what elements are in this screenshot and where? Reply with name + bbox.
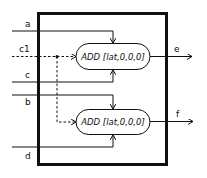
input-c1-label: c1 <box>19 44 30 54</box>
output-f-label: f <box>176 109 180 119</box>
add-node-bottom-label: ADD [lat,0,0,0] <box>80 117 144 127</box>
input-a-label: a <box>25 19 31 29</box>
wire-c1-bottom <box>57 57 76 123</box>
input-d-label: d <box>25 151 31 161</box>
input-a: a <box>12 19 113 43</box>
output-e: e <box>150 44 192 57</box>
input-b: b <box>12 95 113 109</box>
input-d: d <box>12 135 113 161</box>
output-f: f <box>150 109 193 122</box>
input-c: c <box>12 70 113 82</box>
wire-d <box>12 135 113 147</box>
add-node-bottom: ADD [lat,0,0,0] <box>76 110 150 135</box>
module-box <box>39 14 167 165</box>
add-node-top-label: ADD [lat,0,0,0] <box>80 52 144 62</box>
output-e-label: e <box>174 44 180 54</box>
add-node-top: ADD [lat,0,0,0] <box>76 44 150 70</box>
input-b-label: b <box>25 97 31 107</box>
input-c-label: c <box>25 70 30 80</box>
input-c1: c1 <box>12 44 76 122</box>
diagram-canvas: a c1 c b d ADD [lat,0,0,0] ADD [lat,0,0,… <box>0 0 207 178</box>
wire-a <box>12 31 113 43</box>
